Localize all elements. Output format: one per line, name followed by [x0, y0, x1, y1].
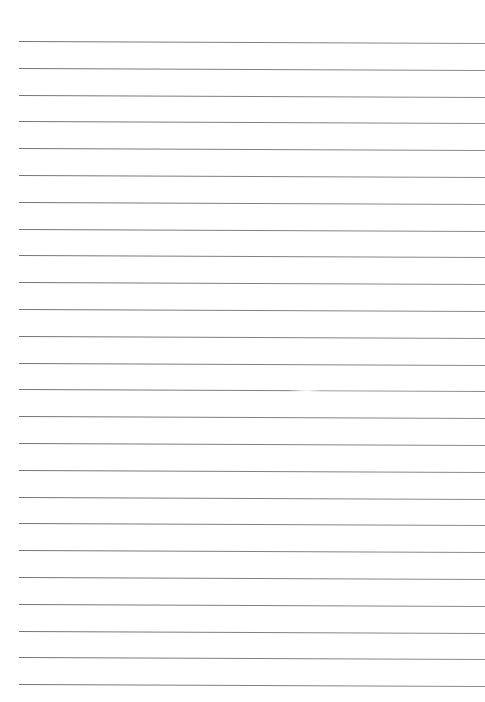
ruled-line [19, 657, 485, 660]
ruled-line [19, 389, 485, 392]
ruled-line [19, 604, 485, 607]
ruled-line [19, 577, 485, 580]
ruled-line [19, 202, 485, 205]
ruled-line [19, 41, 485, 44]
ruled-line [19, 443, 485, 446]
ruled-line [19, 684, 485, 687]
ruled-line [19, 309, 485, 312]
ruled-line [19, 121, 485, 124]
ruled-line [19, 255, 485, 258]
ruled-line [19, 550, 485, 553]
ruled-line [19, 631, 485, 634]
ruled-line [19, 523, 485, 526]
ruled-line [19, 470, 485, 473]
ruled-line [19, 175, 485, 178]
ruled-line [19, 282, 485, 285]
ruled-line [19, 68, 485, 71]
ruled-line [19, 416, 485, 419]
ruled-line [19, 229, 485, 232]
ruled-line [19, 336, 485, 339]
ruled-line [19, 363, 485, 366]
ruled-line [19, 148, 485, 151]
lined-paper-page [0, 0, 485, 702]
ruled-line [19, 95, 485, 98]
ruled-line [19, 497, 485, 500]
